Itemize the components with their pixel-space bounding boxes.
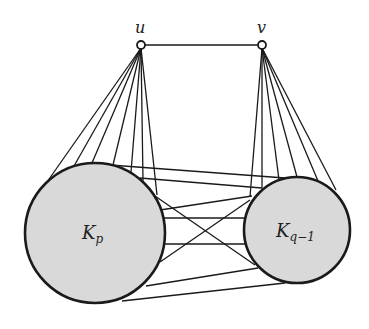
edge-kp-kq1 (140, 178, 262, 188)
vertex-u (137, 41, 145, 49)
clique-kp-label-main: K (82, 222, 95, 243)
clique-kp-label: Kp (82, 222, 103, 246)
edge-v-kq1 (262, 48, 336, 190)
edge-v-kq1 (262, 48, 297, 177)
clique-kq1-label-main: K (276, 220, 289, 241)
edge-kp-kq1 (146, 268, 258, 286)
clique-kp-label-sub: p (95, 232, 103, 246)
vertex-v-label: v (257, 18, 266, 37)
graph-svg (0, 0, 369, 329)
clique-kq1-label: Kq−1 (276, 220, 315, 244)
edge-u-kp (74, 48, 141, 166)
vertex-u-label: u (135, 18, 145, 37)
edge-v-kq1 (250, 48, 262, 197)
clique-kq1-label-sub: q−1 (289, 230, 314, 244)
diagram-canvas: u v Kp Kq−1 (0, 0, 369, 329)
vertex-v (258, 41, 266, 49)
